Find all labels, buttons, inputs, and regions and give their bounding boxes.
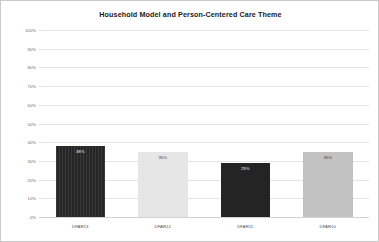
chart-title: Household Model and Person-Centered Care… xyxy=(1,10,379,19)
bar-value-label: 35% xyxy=(303,156,353,160)
y-axis-tick-label: 50% xyxy=(28,121,36,126)
bar-value-label: 38% xyxy=(56,150,106,154)
bar-value-label: 29% xyxy=(221,167,271,171)
x-axis-tick-label: DFAR11 xyxy=(221,224,271,229)
x-axis-tick-label: DFAR12 xyxy=(138,224,188,229)
bar[interactable]: 38% xyxy=(56,146,106,217)
bars-layer: 38%DFAR1335%DFAR1229%DFAR1135%DFAR10 xyxy=(39,30,369,217)
y-axis-tick-label: 100% xyxy=(25,28,36,33)
plot-area: 0%10%20%30%40%50%60%70%80%90%100% 38%DFA… xyxy=(39,30,369,217)
bar-group: 38%DFAR13 xyxy=(56,30,106,217)
y-axis-tick-label: 20% xyxy=(28,177,36,182)
x-axis-tick-label: DFAR13 xyxy=(56,224,106,229)
chart-container: Household Model and Person-Centered Care… xyxy=(0,0,379,242)
y-axis-tick-label: 70% xyxy=(28,84,36,89)
bar[interactable]: 35% xyxy=(303,152,353,217)
y-axis-tick-label: 40% xyxy=(28,140,36,145)
bar-group: 29%DFAR11 xyxy=(221,30,271,217)
bar[interactable]: 29% xyxy=(221,163,271,217)
bar-value-label: 35% xyxy=(138,156,188,160)
y-axis-tick-label: 90% xyxy=(28,46,36,51)
bar-group: 35%DFAR10 xyxy=(303,30,353,217)
bar-group: 35%DFAR12 xyxy=(138,30,188,217)
x-axis-tick-label: DFAR10 xyxy=(303,224,353,229)
y-axis-tick-label: 0% xyxy=(30,215,36,220)
y-axis-tick-label: 10% xyxy=(28,196,36,201)
y-axis-tick-label: 60% xyxy=(28,102,36,107)
y-axis-tick-label: 30% xyxy=(28,158,36,163)
bar[interactable]: 35% xyxy=(138,152,188,217)
y-axis-tick-label: 80% xyxy=(28,65,36,70)
gridline: 0% xyxy=(39,217,369,218)
